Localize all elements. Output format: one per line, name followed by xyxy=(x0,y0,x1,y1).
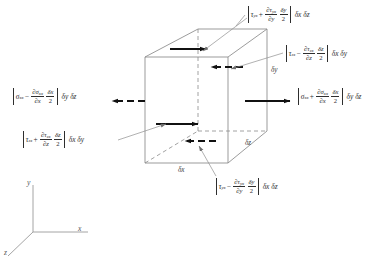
top-delta-den: 2 xyxy=(281,15,286,22)
back-partial-num: ∂τ xyxy=(304,45,310,52)
front-partial-fraction: ∂τzx ∂z xyxy=(40,132,52,147)
label-left-face-sigma-xx-minus: σxx − ∂σxx ∂x δx 2 δy δz xyxy=(12,88,76,107)
bottom-area: δx δz xyxy=(263,183,278,190)
label-bottom-face-tau-yx-minus: τyx − ∂τyx ∂y δy 2 δx δz xyxy=(215,178,278,197)
left-partial-num-sub: xx xyxy=(39,91,43,96)
front-partial-num-sub: zx xyxy=(47,134,51,139)
right-area: δy δz xyxy=(347,93,362,100)
front-stress-subscript: zx xyxy=(28,139,32,144)
top-partial-den: ∂y xyxy=(267,15,275,22)
front-operator: + xyxy=(34,136,38,143)
left-area: δy δz xyxy=(62,93,77,100)
top-partial-fraction: ∂τyx ∂y xyxy=(265,7,277,22)
front-partial-num: ∂τ xyxy=(41,131,47,138)
bottom-delta-num: δy xyxy=(248,179,256,187)
front-partial-den: ∂z xyxy=(42,140,50,147)
label-top-face-tau-yx-plus: τyx + ∂τyx ∂y δy 2 δx δz xyxy=(247,6,310,25)
top-stress-subscript: yx xyxy=(253,14,257,19)
bottom-partial-den: ∂y xyxy=(235,187,243,194)
back-partial-den: ∂z xyxy=(305,54,313,61)
right-stress-subscript: xx xyxy=(304,96,308,101)
right-partial-num: ∂σ xyxy=(317,88,324,95)
right-delta-fraction: δx 2 xyxy=(331,89,339,104)
back-area: δx δy xyxy=(332,50,347,57)
top-operator: + xyxy=(259,11,263,18)
label-front-face-tau-zx-plus: τzx + ∂τzx ∂z δz 2 δx δy xyxy=(22,131,84,150)
top-partial-num-sub: yx xyxy=(272,9,276,14)
right-delta-num: δx xyxy=(331,89,339,97)
axis-label-z: z xyxy=(4,248,7,257)
right-partial-num-sub: xx xyxy=(324,91,328,96)
left-partial-num: ∂σ xyxy=(32,88,39,95)
bottom-partial-fraction: ∂τyx ∂y xyxy=(233,179,245,194)
top-delta-num: δy xyxy=(280,7,288,15)
label-right-face-sigma-xx-plus: σxx + ∂σxx ∂x δx 2 δy δz xyxy=(297,88,361,107)
left-operator: − xyxy=(25,93,29,100)
bottom-stress-subscript: yx xyxy=(221,186,225,191)
figure-canvas: τyx + ∂τyx ∂y δy 2 δx δz τzx − xyxy=(0,0,386,263)
coordinate-axes xyxy=(8,185,88,256)
left-partial-den: ∂x xyxy=(34,97,42,104)
axis-label-x: x xyxy=(78,224,81,233)
back-partial-fraction: ∂τzx ∂z xyxy=(303,46,315,61)
back-delta-den: 2 xyxy=(318,54,323,61)
back-stress-subscript: zx xyxy=(291,53,295,58)
right-partial-den: ∂x xyxy=(319,97,327,104)
bottom-partial-num-sub: yx xyxy=(240,181,244,186)
left-partial-fraction: ∂σxx ∂x xyxy=(31,89,44,104)
right-partial-fraction: ∂σxx ∂x xyxy=(316,89,329,104)
left-delta-num: δx xyxy=(46,89,54,97)
left-stress-subscript: xx xyxy=(19,96,23,101)
front-delta-fraction: δz 2 xyxy=(54,132,62,147)
dimension-label-dy: δy xyxy=(271,66,278,74)
bottom-delta-fraction: δy 2 xyxy=(248,179,256,194)
front-delta-den: 2 xyxy=(55,140,60,147)
back-operator: − xyxy=(297,50,301,57)
cube-front-face xyxy=(145,57,228,163)
right-delta-den: 2 xyxy=(333,97,338,104)
top-delta-fraction: δy 2 xyxy=(280,7,288,22)
bottom-delta-den: 2 xyxy=(249,187,254,194)
top-area: δx δz xyxy=(295,11,310,18)
left-delta-fraction: δx 2 xyxy=(46,89,54,104)
bottom-operator: − xyxy=(227,183,231,190)
right-operator: + xyxy=(310,93,314,100)
label-back-face-tau-zx-minus: τzx − ∂τzx ∂z δz 2 δx δy xyxy=(285,45,347,64)
leader-lines xyxy=(118,15,283,176)
axis-label-y: y xyxy=(27,178,30,187)
back-delta-num: δz xyxy=(317,46,325,54)
back-partial-num-sub: zx xyxy=(310,48,314,53)
front-delta-num: δz xyxy=(54,132,62,140)
left-delta-den: 2 xyxy=(48,97,53,104)
dimension-label-dx: δx xyxy=(178,166,185,174)
front-area: δx δy xyxy=(69,136,84,143)
dimension-label-dz: δz xyxy=(245,139,251,147)
back-delta-fraction: δz 2 xyxy=(317,46,325,61)
